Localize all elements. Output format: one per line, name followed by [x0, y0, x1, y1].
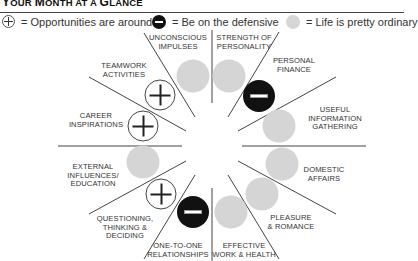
ordinary-circle-icon [177, 60, 210, 93]
sector-label-questioning-thinking-deciding: QUESTIONING, THINKING & DECIDING [97, 215, 153, 241]
sector-label-domestic-affairs: DOMESTIC AFFAIRS [304, 166, 345, 183]
ordinary-circle-icon [263, 110, 296, 143]
sector-label-external-influences-education: EXTERNAL INFLUENCES/ EDUCATION [67, 163, 118, 189]
sector-label-useful-information-gathering: USEFUL INFORMATION GATHERING [308, 106, 362, 132]
label-line: RELATIONSHIPS [147, 251, 209, 260]
opportunity-plus-icon [146, 179, 177, 210]
label-line: ACTIVITIES [101, 71, 147, 80]
sector-label-pleasure-romance: PLEASURE & ROMANCE [268, 214, 315, 231]
ordinary-circle-icon [127, 146, 160, 179]
sector-label-career-inspirations: CAREER INSPIRATIONS [69, 112, 123, 129]
ordinary-circle-icon [213, 60, 246, 93]
defensive-circle-icon [177, 196, 209, 228]
sector-label-personal-finance: PERSONAL FINANCE [273, 57, 315, 74]
label-line: PERSONALITY [216, 43, 272, 52]
label-line: INSPIRATIONS [69, 121, 123, 130]
label-line: & ROMANCE [268, 223, 315, 232]
label-line: DECIDING [97, 232, 153, 241]
label-line: WORK & HEALTH [212, 251, 276, 260]
label-line: IMPULSES [149, 43, 207, 52]
sector-label-effective-work-health: EFFECTIVE WORK & HEALTH [212, 242, 276, 259]
sector-label-teamwork-activities: TEAMWORK ACTIVITIES [101, 62, 147, 79]
defensive-circle-icon [243, 80, 275, 112]
ordinary-circle-icon [246, 178, 279, 211]
sector-label-one-to-one-relationships: ONE-TO-ONE RELATIONSHIPS [147, 242, 209, 259]
label-line: EDUCATION [67, 180, 118, 189]
sector-label-strength-of-personality: STRENGTH OF PERSONALITY [216, 34, 272, 51]
ordinary-circle-icon [266, 148, 299, 181]
label-line: FINANCE [273, 66, 315, 75]
opportunity-plus-icon [145, 80, 176, 111]
opportunity-plus-icon [128, 111, 159, 142]
label-line: AFFAIRS [304, 175, 345, 184]
label-line: GATHERING [308, 123, 362, 132]
sector-label-unconscious-impulses: UNCONSCIOUS IMPULSES [149, 34, 207, 51]
ordinary-circle-icon [215, 196, 248, 229]
